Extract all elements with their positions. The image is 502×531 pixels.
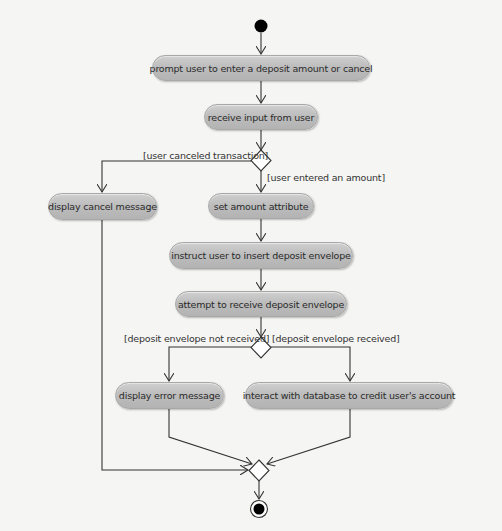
activity-label: display error message [119, 390, 220, 401]
activity-label: receive input from user [208, 112, 314, 123]
edge-decision-to-error [169, 347, 251, 381]
activity-label: set amount attribute [214, 201, 309, 212]
guard-user-entered-amount: [user entered an amount] [267, 172, 385, 183]
activity-label: attempt to receive deposit envelope [178, 299, 344, 310]
activity-credit-account: interact with database to credit user's … [245, 382, 453, 409]
activity-label: instruct user to insert deposit envelope [171, 250, 350, 261]
activity-set-amount-attribute: set amount attribute [208, 193, 314, 219]
edge-error-to-merge [169, 409, 252, 464]
initial-node-icon [255, 20, 268, 33]
activity-attempt-receive-envelope: attempt to receive deposit envelope [175, 291, 347, 317]
guard-user-canceled: [user canceled transaction] [143, 150, 268, 161]
activity-label: interact with database to credit user's … [243, 390, 456, 401]
activity-display-error-message: display error message [115, 382, 224, 409]
activity-prompt-user: prompt user to enter a deposit amount or… [152, 55, 370, 81]
activity-diagram: prompt user to enter a deposit amount or… [0, 0, 502, 531]
activity-instruct-insert-envelope: instruct user to insert deposit envelope [169, 242, 353, 269]
merge-diamond-icon [249, 460, 269, 481]
edge-decision-to-credit [271, 347, 350, 381]
final-node-core-icon [254, 504, 265, 515]
activity-display-cancel-message: display cancel message [48, 193, 157, 220]
guard-envelope-received: [deposit envelope received] [272, 333, 400, 344]
activity-label: display cancel message [48, 201, 157, 212]
activity-receive-input: receive input from user [204, 104, 318, 130]
edge-credit-to-merge [267, 409, 350, 464]
activity-label: prompt user to enter a deposit amount or… [150, 63, 373, 74]
edge-decision-to-cancel [102, 161, 251, 192]
guard-envelope-not-received: [deposit envelope not received] [124, 333, 269, 344]
